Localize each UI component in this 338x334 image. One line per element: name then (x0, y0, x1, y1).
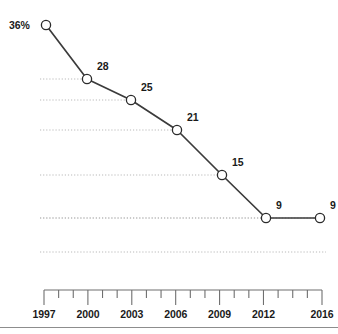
data-point-marker[interactable] (217, 170, 226, 179)
line-chart: 36%2825211599 19972000200320062009201220… (0, 0, 338, 334)
x-axis-ruler (44, 290, 322, 305)
data-point-marker[interactable] (172, 125, 181, 134)
x-axis-tick-label: 2009 (208, 309, 231, 320)
data-point-label: 15 (232, 157, 243, 168)
x-axis-tick-label: 2006 (164, 309, 187, 320)
data-point-marker[interactable] (261, 213, 270, 222)
x-axis-tick-group (44, 290, 322, 305)
series-line (46, 25, 320, 218)
chart-plot-area (0, 0, 338, 334)
data-point-marker-group (41, 20, 324, 222)
data-point-label: 25 (141, 82, 152, 93)
x-axis-tick-label: 2016 (311, 309, 334, 320)
x-axis-tick-label: 2003 (120, 309, 143, 320)
data-point-marker[interactable] (315, 213, 324, 222)
data-point-marker[interactable] (126, 95, 135, 104)
x-axis-tick-label: 2012 (252, 309, 275, 320)
gridline-group (40, 79, 326, 252)
x-axis-tick-label: 2000 (76, 309, 99, 320)
data-point-label: 9 (276, 200, 282, 211)
data-point-label: 9 (330, 200, 336, 211)
data-point-label: 28 (97, 61, 108, 72)
data-point-label: 36% (9, 20, 30, 31)
data-point-label: 21 (187, 112, 198, 123)
page-footer-rule (0, 327, 338, 328)
data-point-marker[interactable] (82, 74, 91, 83)
data-point-marker[interactable] (41, 20, 50, 29)
x-axis-tick-label: 1997 (33, 309, 56, 320)
